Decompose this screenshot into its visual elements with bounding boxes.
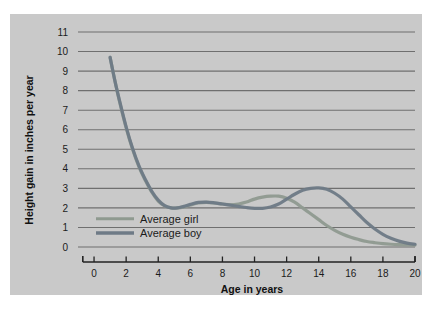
y-tick-label: 11 (58, 27, 69, 38)
x-tick-label: 4 (155, 268, 161, 279)
x-axis-line (83, 256, 415, 262)
x-tick-label: 6 (188, 268, 194, 279)
x-tick-label: 18 (377, 268, 389, 279)
x-axis-tick-labels: 02468101214161820 (91, 268, 421, 279)
legend-label-average-girl: Average girl (140, 213, 199, 225)
y-tick-label: 9 (62, 66, 68, 77)
y-tick-label: 4 (62, 163, 68, 174)
y-tick-label: 0 (62, 242, 68, 253)
y-tick-label: 3 (62, 183, 68, 194)
x-axis-title: Age in years (221, 283, 284, 295)
chart-screenshot: 01234567891011 02468101214161820 Average… (0, 0, 430, 314)
x-tick-label: 16 (345, 268, 357, 279)
y-tick-label: 10 (57, 46, 69, 57)
x-tick-label: 10 (249, 268, 261, 279)
growth-rate-line-chart: 01234567891011 02468101214161820 Average… (0, 0, 430, 314)
x-tick-label: 8 (220, 268, 226, 279)
x-tick-label: 20 (409, 268, 421, 279)
y-tick-label: 1 (62, 222, 68, 233)
y-tick-label: 6 (62, 124, 68, 135)
x-tick-label: 12 (281, 268, 293, 279)
y-axis-title: Height gain in inches per year (23, 75, 35, 224)
x-tick-label: 2 (123, 268, 129, 279)
y-tick-label: 7 (62, 105, 68, 116)
x-tick-label: 14 (313, 268, 325, 279)
x-tick-label: 0 (91, 268, 97, 279)
y-tick-label: 8 (62, 85, 68, 96)
y-tick-label: 5 (62, 144, 68, 155)
legend-label-average-boy: Average boy (140, 227, 202, 239)
y-tick-label: 2 (62, 203, 68, 214)
y-axis-tick-labels: 01234567891011 (57, 27, 69, 253)
legend: Average girlAverage boy (96, 213, 202, 239)
